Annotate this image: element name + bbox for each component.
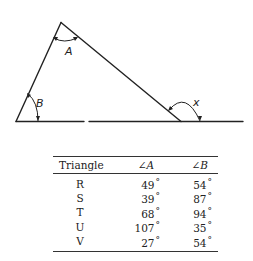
value-angle-b: 54: [193, 237, 206, 249]
header-angle-b: ∠B: [172, 157, 218, 174]
cell-triangle: V: [53, 235, 107, 252]
triangle-right-side: [61, 23, 181, 122]
header-triangle: Triangle: [53, 157, 107, 174]
degree-symbol: °: [208, 191, 213, 201]
cell-angle-a: 39°: [107, 191, 172, 205]
cell-angle-a: 27°: [107, 235, 172, 252]
cell-triangle: R: [53, 174, 107, 192]
degree-symbol: °: [156, 220, 161, 230]
header-angle-a: ∠A: [107, 157, 172, 174]
angle-a-arc: [54, 38, 77, 41]
degree-symbol: °: [156, 177, 161, 187]
degree-symbol: °: [156, 191, 161, 201]
cell-angle-a: 49°: [107, 174, 172, 192]
value-angle-a: 39: [141, 193, 154, 205]
cell-angle-b: 54°: [172, 235, 218, 252]
angle-b-arrowhead-bottom-icon: [36, 116, 40, 121]
value-angle-b: 94: [193, 208, 206, 220]
degree-symbol: °: [208, 235, 213, 245]
cell-angle-b: 87°: [172, 191, 218, 205]
value-angle-b: 35: [193, 222, 206, 234]
cell-angle-a: 68°: [107, 206, 172, 220]
value-angle-b: 87: [193, 193, 206, 205]
degree-symbol: °: [156, 235, 161, 245]
value-angle-b: 54: [193, 179, 206, 191]
angle-a-label: A: [64, 45, 73, 58]
table-row: U 107° 35°: [53, 220, 218, 234]
degree-symbol: °: [156, 206, 161, 216]
angle-table: Triangle ∠A ∠B R 49° 54° S 39° 87° T 68°…: [53, 156, 218, 252]
cell-triangle: S: [53, 191, 107, 205]
table-row: R 49° 54°: [53, 174, 218, 192]
value-angle-a: 107: [135, 222, 155, 234]
table-row: T 68° 94°: [53, 206, 218, 220]
value-angle-a: 49: [141, 179, 154, 191]
cell-triangle: T: [53, 206, 107, 220]
table-header-row: Triangle ∠A ∠B: [53, 157, 218, 174]
cell-angle-b: 35°: [172, 220, 218, 234]
cell-angle-b: 94°: [172, 206, 218, 220]
degree-symbol: °: [208, 206, 213, 216]
value-angle-a: 27: [141, 237, 154, 249]
cell-angle-a: 107°: [107, 220, 172, 234]
angle-x-label: x: [192, 96, 200, 109]
degree-symbol: °: [208, 177, 213, 187]
cell-triangle: U: [53, 220, 107, 234]
cell-angle-b: 54°: [172, 174, 218, 192]
value-angle-a: 68: [141, 208, 154, 220]
degree-symbol: °: [208, 220, 213, 230]
triangle-diagram: A B x: [0, 0, 253, 135]
angle-b-label: B: [36, 97, 44, 110]
angle-table-container: Triangle ∠A ∠B R 49° 54° S 39° 87° T 68°…: [53, 156, 218, 252]
table-row: V 27° 54°: [53, 235, 218, 252]
table-row: S 39° 87°: [53, 191, 218, 205]
